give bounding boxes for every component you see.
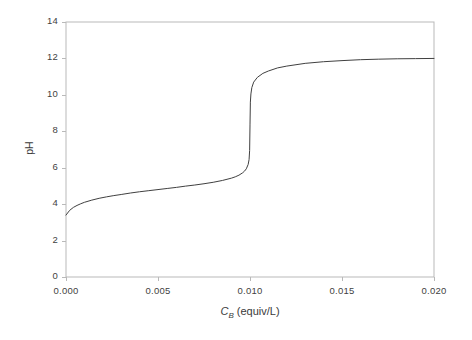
y-tick-label: 14 — [47, 15, 58, 26]
x-tick-label: 0.020 — [404, 285, 464, 296]
x-axis-label: CB (equiv/L) — [170, 305, 330, 320]
y-tick-label: 8 — [53, 124, 58, 135]
x-tick-label: 0.005 — [128, 285, 188, 296]
y-tick-label: 0 — [53, 270, 58, 281]
y-axis-label: pH — [23, 141, 35, 154]
y-tick-label: 10 — [47, 88, 58, 99]
series-line — [66, 58, 434, 215]
x-axis-units: (equiv/L) — [237, 305, 280, 317]
x-tick-label: 0.015 — [312, 285, 372, 296]
y-tick-label: 12 — [47, 51, 58, 62]
chart-figure: 024681012140.0000.0050.0100.0150.020 pH … — [0, 0, 472, 340]
x-axis-subscript: B — [228, 311, 233, 320]
data-series-group — [66, 58, 434, 215]
y-tick-label: 6 — [53, 161, 58, 172]
y-tick-label: 4 — [53, 197, 58, 208]
y-tick-label: 2 — [53, 234, 58, 245]
tick-marks — [62, 23, 435, 282]
x-tick-label: 0.000 — [36, 285, 96, 296]
x-tick-label: 0.010 — [220, 285, 280, 296]
